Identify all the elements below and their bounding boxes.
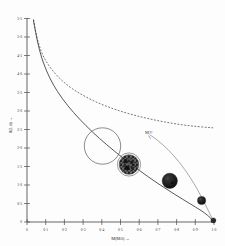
x-tick-label-7: 0·7 (155, 228, 160, 232)
y-tick-label-5: 2·5 (17, 128, 22, 132)
small-disk-marker (198, 196, 206, 204)
x-axis-title: M(M⊙) → (111, 236, 129, 241)
y-tick-label-10: 5·0 (17, 35, 22, 39)
x-tick-label-4: 0·4 (99, 228, 104, 232)
y-tick-label-8: 4·0 (17, 72, 22, 76)
y-tick-label-9: 4·5 (17, 54, 22, 58)
x-tick-label-5: 0·5 (118, 228, 123, 232)
axes-group (27, 18, 214, 222)
x-tick-label-10: 1·0 (212, 228, 217, 232)
thin-connector-curve (150, 135, 214, 222)
y-tick-label-7: 3·5 (17, 91, 22, 95)
x-tick-label-3: 0·3 (81, 228, 86, 232)
y-axis-title: R(L⊙) → (8, 117, 13, 133)
dashed-curve (34, 20, 215, 128)
x-tick-label-8: 0·8 (174, 228, 179, 232)
solar-mass-annotation: M☉ (145, 130, 153, 139)
x-tick-label-9: 0·9 (193, 228, 198, 232)
x-tick-label-0: 0 (26, 228, 28, 232)
solar-mass-label: M☉ (145, 130, 153, 135)
y-axis-ticks: 0 0·5 1·0 1·5 2·0 2·5 3·0 3·5 4·0 4·5 5·… (17, 17, 30, 225)
y-tick-label-11: 5·5 (17, 17, 22, 21)
y-tick-label-3: 1·5 (17, 165, 22, 169)
stippled-disk-marker (117, 153, 140, 176)
solid-curve (34, 20, 214, 221)
plot-svg: 0 0·5 1·0 1·5 2·0 2·5 3·0 3·5 4·0 4·5 5·… (0, 0, 225, 246)
open-circle-marker (84, 128, 120, 164)
y-tick-label-1: 0·5 (17, 202, 22, 206)
tiny-disk-marker (211, 218, 216, 223)
x-tick-label-6: 0·6 (137, 228, 142, 232)
y-tick-label-6: 3·0 (17, 109, 22, 113)
y-tick-label-0: 0 (20, 220, 22, 224)
y-tick-label-4: 2·0 (17, 146, 22, 150)
dark-disk-marker (162, 173, 177, 188)
x-tick-label-1: 0·1 (43, 228, 48, 232)
figure-container: 0 0·5 1·0 1·5 2·0 2·5 3·0 3·5 4·0 4·5 5·… (0, 0, 225, 246)
x-tick-label-2: 0·2 (62, 228, 67, 232)
x-axis-ticks: 0 0·1 0·2 0·3 0·4 0·5 0·6 0·7 0·8 0·9 1·… (26, 219, 217, 232)
y-tick-label-2: 1·0 (17, 183, 22, 187)
